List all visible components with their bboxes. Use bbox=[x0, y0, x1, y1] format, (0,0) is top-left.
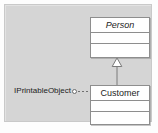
generalization-connector-customer-to-person[interactable] bbox=[109, 57, 125, 86]
uml-class-customer-name: Customer bbox=[91, 86, 149, 101]
interface-label-iprintableobject: IPrintableObject bbox=[13, 86, 71, 96]
interface-realization-line bbox=[78, 91, 90, 92]
uml-class-person-attributes bbox=[91, 33, 149, 44]
uml-class-person-operations bbox=[91, 44, 149, 56]
hollow-triangle-arrowhead bbox=[112, 58, 122, 67]
uml-class-diagram: Person Customer IPrintableObject bbox=[0, 0, 158, 133]
uml-class-customer[interactable]: Customer bbox=[90, 85, 150, 125]
uml-class-customer-operations bbox=[91, 112, 149, 124]
uml-class-person[interactable]: Person bbox=[90, 17, 150, 58]
uml-class-person-name: Person bbox=[91, 18, 149, 33]
diagram-canvas: Person Customer IPrintableObject bbox=[4, 4, 152, 122]
uml-class-customer-attributes bbox=[91, 101, 149, 112]
interface-lollipop-icon[interactable] bbox=[72, 89, 77, 94]
